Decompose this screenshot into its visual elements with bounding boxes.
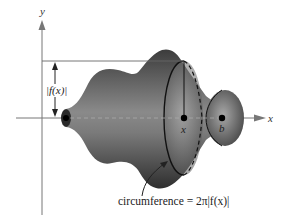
x-axis-label: x (268, 113, 273, 124)
circumference-caption: circumference = 2π|f(x)| (118, 196, 229, 208)
solid-of-revolution-diagram (0, 0, 282, 222)
radius-label: |f(x)| (46, 84, 67, 97)
point-b (219, 115, 225, 121)
point-x-label: x (181, 124, 186, 135)
point-b-label: b (219, 123, 225, 134)
y-axis-label: y (40, 6, 45, 17)
point-x (181, 115, 187, 121)
